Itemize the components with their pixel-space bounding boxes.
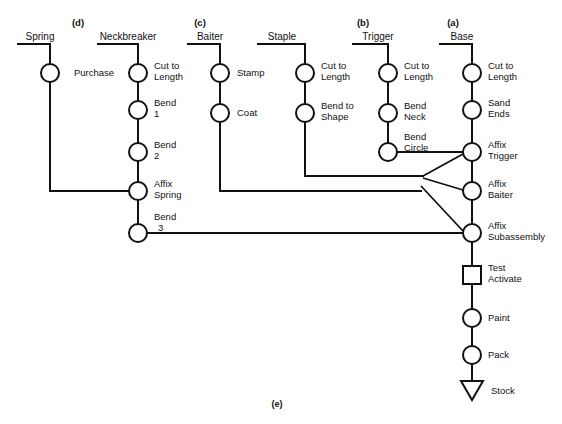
column-header-spring: Spring bbox=[26, 31, 55, 42]
label-purchase: Purchase bbox=[74, 67, 114, 78]
label-affix-subassembly-l2: Subassembly bbox=[488, 231, 545, 242]
label-affix-spring-l2: Spring bbox=[154, 189, 181, 200]
column-header-baiter: Baiter bbox=[197, 31, 224, 42]
label-neckbreaker-cut-to-length-l1: Cut to bbox=[154, 60, 179, 71]
label-paint: Paint bbox=[488, 312, 510, 323]
label-test-activate-l1: Test bbox=[488, 262, 506, 273]
header-bar-neckbreaker bbox=[98, 44, 138, 64]
label-base-cut-to-length-l1: Cut to bbox=[488, 60, 513, 71]
spine-spring-to-affix-spring bbox=[50, 82, 129, 191]
label-bend-1-l1: Bend bbox=[154, 97, 176, 108]
label-staple-cut-to-length-l1: Cut to bbox=[321, 60, 346, 71]
label-bend-to-shape-l1: Bend to bbox=[321, 100, 354, 111]
label-affix-baiter-l2: Baiter bbox=[488, 189, 513, 200]
node-neckbreaker-cut-to-length[interactable] bbox=[129, 64, 147, 82]
column-header-neckbreaker: Neckbreaker bbox=[100, 31, 157, 42]
node-bend-neck[interactable] bbox=[379, 104, 397, 122]
node-affix-spring[interactable] bbox=[129, 182, 147, 200]
label-bend-2-l1: Bend bbox=[154, 139, 176, 150]
flow-spines bbox=[50, 82, 472, 381]
column-header-staple: Staple bbox=[268, 31, 297, 42]
node-affix-baiter[interactable] bbox=[463, 182, 481, 200]
label-affix-trigger-l1: Affix bbox=[488, 139, 507, 150]
label-affix-baiter-l1: Affix bbox=[488, 178, 507, 189]
group-tag-a: (a) bbox=[447, 17, 459, 28]
label-bend-1-l2: 1 bbox=[154, 108, 159, 119]
label-bend-neck-l2: Neck bbox=[404, 111, 426, 122]
label-bend-circle-l1: Bend bbox=[404, 131, 426, 142]
label-pack: Pack bbox=[488, 349, 509, 360]
label-trigger-cut-to-length-l1: Cut to bbox=[404, 60, 429, 71]
node-coat[interactable] bbox=[211, 104, 229, 122]
label-bend-circle-l2: Circle bbox=[404, 142, 428, 153]
label-affix-spring-l1: Affix bbox=[154, 178, 173, 189]
group-tag-c: (c) bbox=[194, 17, 206, 28]
fan-to-affix-trigger bbox=[423, 154, 463, 176]
header-bar-trigger bbox=[353, 44, 388, 64]
header-bar-spring bbox=[18, 44, 50, 64]
group-tag-b: (b) bbox=[357, 17, 369, 28]
column-header-base: Base bbox=[451, 31, 474, 42]
label-bend-3-l1: Bend bbox=[154, 211, 176, 222]
label-coat: Coat bbox=[237, 107, 257, 118]
fan-to-affix-baiter bbox=[423, 178, 463, 190]
node-purchase[interactable] bbox=[41, 64, 59, 82]
label-sand-ends-l1: Sand bbox=[488, 97, 510, 108]
figure-caption: (e) bbox=[272, 399, 283, 409]
label-bend-3-l2: 3 bbox=[158, 222, 163, 233]
label-bend-2-l2: 2 bbox=[154, 150, 159, 161]
header-bar-staple bbox=[258, 44, 305, 64]
node-trigger-cut-to-length[interactable] bbox=[379, 64, 397, 82]
node-bend-circle[interactable] bbox=[379, 143, 397, 161]
label-base-cut-to-length-l2: Length bbox=[488, 71, 517, 82]
header-bar-baiter bbox=[188, 44, 220, 64]
junction-fan bbox=[421, 154, 463, 231]
label-affix-subassembly-l1: Affix bbox=[488, 220, 507, 231]
node-bend-to-shape[interactable] bbox=[296, 104, 314, 122]
node-sand-ends[interactable] bbox=[463, 101, 481, 119]
column-header-trigger: Trigger bbox=[362, 31, 394, 42]
group-tag-d: (d) bbox=[72, 17, 84, 28]
node-test-activate[interactable] bbox=[463, 266, 481, 284]
node-stock-storage-triangle[interactable] bbox=[461, 381, 483, 400]
node-base-cut-to-length[interactable] bbox=[463, 64, 481, 82]
label-bend-to-shape-l2: Shape bbox=[321, 111, 348, 122]
label-sand-ends-l2: Ends bbox=[488, 108, 510, 119]
node-affix-subassembly[interactable] bbox=[463, 224, 481, 242]
node-bend-2[interactable] bbox=[129, 143, 147, 161]
node-paint[interactable] bbox=[463, 309, 481, 327]
fan-to-affix-subassembly bbox=[421, 186, 463, 231]
node-pack[interactable] bbox=[463, 346, 481, 364]
label-staple-cut-to-length-l2: Length bbox=[321, 71, 350, 82]
node-bend-1[interactable] bbox=[129, 101, 147, 119]
label-test-activate-l2: Activate bbox=[488, 273, 522, 284]
label-neckbreaker-cut-to-length-l2: Length bbox=[154, 71, 183, 82]
label-trigger-cut-to-length-l2: Length bbox=[404, 71, 433, 82]
header-bar-base bbox=[440, 44, 472, 64]
assembly-process-chart-svg: (d) (c) (b) (a) Spring Neckbreaker Baite… bbox=[0, 0, 562, 424]
label-stamp: Stamp bbox=[237, 67, 264, 78]
label-stock: Stock bbox=[491, 385, 515, 396]
node-staple-cut-to-length[interactable] bbox=[296, 64, 314, 82]
label-bend-neck-l1: Bend bbox=[404, 100, 426, 111]
figure-canvas: (d) (c) (b) (a) Spring Neckbreaker Baite… bbox=[0, 0, 562, 424]
node-affix-trigger[interactable] bbox=[463, 143, 481, 161]
node-stamp[interactable] bbox=[211, 64, 229, 82]
node-bend-3[interactable] bbox=[129, 224, 147, 242]
label-affix-trigger-l2: Trigger bbox=[488, 150, 518, 161]
